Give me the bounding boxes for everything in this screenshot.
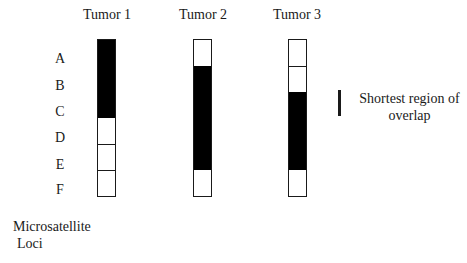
locus-label-d: D xyxy=(53,130,67,146)
locus-cell-f xyxy=(194,170,211,196)
locus-label-b: B xyxy=(53,78,67,94)
tumor-2-column xyxy=(193,39,212,197)
locus-cell-e xyxy=(289,144,306,170)
locus-label-e: E xyxy=(53,157,67,173)
overlap-legend-text: Shortest region of overlap xyxy=(352,90,467,124)
axis-label-line-2: Loci xyxy=(13,235,91,252)
locus-label-a: A xyxy=(53,51,67,67)
axis-label-line-1: Microsatellite xyxy=(13,218,91,235)
locus-label-c: C xyxy=(53,104,67,120)
microsatellite-loci-label: Microsatellite Loci xyxy=(13,218,91,252)
diagram-canvas: Tumor 1 Tumor 2 Tumor 3 A B C D E F Shor… xyxy=(0,0,467,263)
locus-cell-f xyxy=(289,170,306,196)
locus-cell-d xyxy=(98,118,115,144)
tumor-3-column xyxy=(288,39,307,197)
locus-cell-b xyxy=(98,66,115,92)
locus-cell-c xyxy=(289,92,306,118)
legend-line-2: overlap xyxy=(352,107,467,124)
overlap-legend-bar-icon xyxy=(338,90,341,116)
locus-cell-e xyxy=(194,144,211,170)
locus-cell-f xyxy=(98,170,115,196)
legend-line-1: Shortest region of xyxy=(352,90,467,107)
tumor-1-title: Tumor 1 xyxy=(83,7,131,23)
locus-cell-c xyxy=(194,92,211,118)
locus-cell-b xyxy=(289,66,306,92)
tumor-3-title: Tumor 3 xyxy=(273,7,321,23)
tumor-1-column xyxy=(97,39,116,197)
locus-cell-a xyxy=(194,40,211,66)
locus-cell-d xyxy=(289,118,306,144)
locus-cell-a xyxy=(289,40,306,66)
locus-cell-e xyxy=(98,144,115,170)
locus-cell-d xyxy=(194,118,211,144)
tumor-2-title: Tumor 2 xyxy=(179,7,227,23)
locus-cell-c xyxy=(98,92,115,118)
locus-cell-b xyxy=(194,66,211,92)
locus-cell-a xyxy=(98,40,115,66)
locus-label-f: F xyxy=(53,182,67,198)
